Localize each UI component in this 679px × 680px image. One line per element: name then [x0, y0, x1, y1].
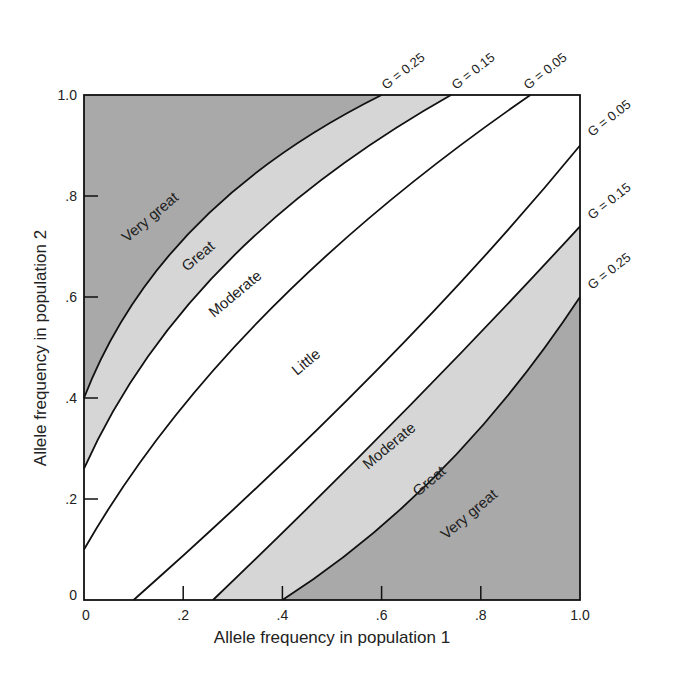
genetic-differentiation-chart: 0 .2 .4 .6 .8 1.0 0 .2 .4 .6 .8 1.0 Alle… — [0, 0, 679, 680]
y-axis-title: Allele frequency in population 2 — [31, 230, 50, 466]
y-tick-02: .2 — [65, 491, 77, 507]
y-tick-08: .8 — [65, 188, 77, 204]
y-tick-0: 0 — [69, 587, 77, 603]
g-label-top-005: G = 0.05 — [521, 50, 570, 93]
x-tick-08: .8 — [475, 607, 487, 623]
g-label-top-015: G = 0.15 — [449, 50, 498, 93]
x-tick-04: .4 — [277, 607, 289, 623]
x-tick-0: 0 — [82, 607, 90, 623]
x-axis-title: Allele frequency in population 1 — [214, 628, 450, 647]
y-tick-10: 1.0 — [58, 87, 78, 103]
y-tick-04: .4 — [65, 390, 77, 406]
x-tick-02: .2 — [177, 607, 189, 623]
g-label-right-025: G = 0.25 — [585, 250, 634, 293]
x-tick-10: 1.0 — [570, 607, 590, 623]
g-label-right-015: G = 0.15 — [585, 180, 634, 223]
g-label-right-005: G = 0.05 — [585, 97, 634, 140]
plot-area — [84, 95, 580, 600]
x-tick-06: .6 — [376, 607, 388, 623]
y-tick-06: .6 — [65, 289, 77, 305]
g-label-top-025: G = 0.25 — [379, 50, 428, 93]
